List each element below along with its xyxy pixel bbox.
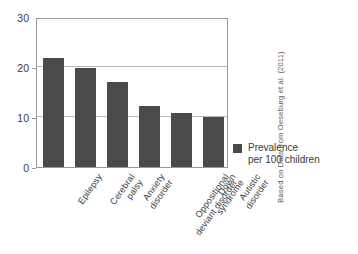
x-axis: EpilepsyCerebral palsyAnxiety disorderOp… <box>0 0 358 254</box>
x-axis-label: Epilepsy <box>76 172 104 206</box>
square-swatch-icon <box>233 144 242 153</box>
source-credit: Based on Data from Oeseburg et al. (2011… <box>276 51 284 202</box>
x-axis-label: Cerebral palsy <box>108 172 145 212</box>
x-axis-label: Autistic disorder <box>235 172 270 211</box>
bar-chart-figure: 0102030 EpilepsyCerebral palsyAnxiety di… <box>0 0 358 254</box>
x-axis-label: Anxiety disorder <box>139 172 174 211</box>
